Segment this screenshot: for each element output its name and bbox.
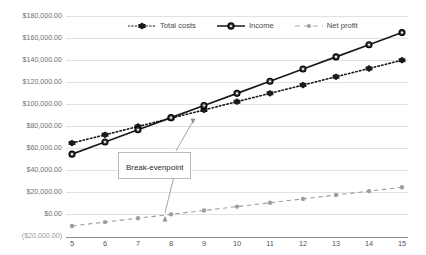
x-axis-line (66, 237, 408, 238)
x-tick-label: 6 (92, 240, 118, 247)
x-tick-label: 8 (158, 240, 184, 247)
y-tick-label: $140,000.00 (0, 57, 62, 64)
x-tick-label: 15 (389, 240, 415, 247)
series-layer (66, 16, 408, 237)
y-tick-label: $120,000.00 (0, 79, 62, 86)
legend-marker-dashed-icon (295, 21, 323, 31)
y-tick-label: $100,000.00 (0, 101, 62, 108)
y-tick-label: $80,000.00 (0, 123, 62, 130)
legend-marker-dotted-icon (128, 21, 156, 31)
y-tick-label: $40,000.00 (0, 167, 62, 174)
series-total-costs (69, 57, 406, 147)
plot-area: 5 6 7 8 9 10 11 12 13 14 15 (66, 16, 408, 237)
series-income (69, 30, 405, 158)
series-net-profit (70, 185, 404, 228)
y-tick-label: ($20,000.00) (0, 233, 62, 240)
x-tick-label: 9 (191, 240, 217, 247)
y-tick-label: $20,000.00 (0, 189, 62, 196)
x-tick-label: 5 (59, 240, 85, 247)
x-tick-label: 11 (257, 240, 283, 247)
x-tick-label: 14 (356, 240, 382, 247)
x-tick-label: 10 (224, 240, 250, 247)
break-even-callout[interactable]: Break-evenpoint (118, 152, 191, 179)
y-tick-label: $0.00 (0, 211, 62, 218)
legend-label: Net profit (327, 22, 358, 30)
legend-item-income[interactable]: Income (217, 21, 274, 31)
x-tick-label: 13 (323, 240, 349, 247)
legend-label: Income (249, 22, 274, 30)
legend-item-total-costs[interactable]: Total costs (128, 21, 196, 31)
break-even-label: Break-evenpoint (126, 163, 183, 172)
x-tick-label: 12 (290, 240, 316, 247)
y-tick-label: $160,000.00 (0, 35, 62, 42)
y-tick-label: $180,000.00 (0, 13, 62, 20)
y-tick-label: $60,000.00 (0, 145, 62, 152)
legend-item-net-profit[interactable]: Net profit (295, 21, 358, 31)
x-tick-label: 7 (125, 240, 151, 247)
chart-legend: Total costs Income Net profit (128, 21, 358, 31)
legend-marker-solid-icon (217, 21, 245, 31)
break-even-chart: $180,000.00 $160,000.00 $140,000.00 $120… (0, 0, 426, 255)
legend-label: Total costs (160, 22, 196, 30)
